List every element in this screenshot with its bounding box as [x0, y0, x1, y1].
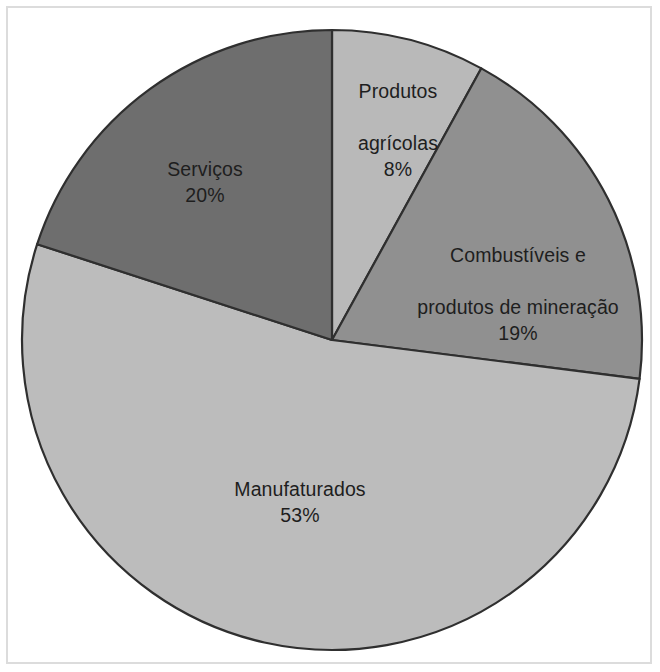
pie-chart-svg — [0, 0, 660, 672]
pie-slice-group — [22, 30, 642, 650]
pie-chart-figure: Produtos agrícolas 8% Combustíveis e pro… — [0, 0, 660, 672]
